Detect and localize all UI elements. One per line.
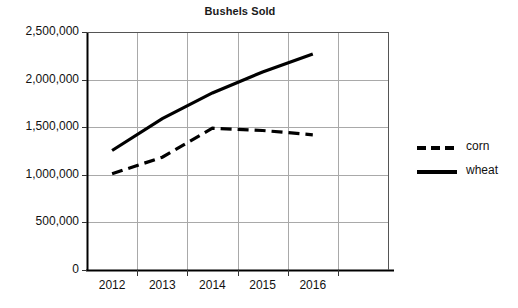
- data-series-group: [112, 54, 313, 174]
- y-tick-label: 1,000,000: [0, 167, 79, 181]
- legend-label-corn: corn: [458, 139, 489, 153]
- y-tick-label: 2,500,000: [0, 24, 79, 38]
- chart-legend: corn wheat: [416, 134, 516, 182]
- legend-item-corn: corn: [416, 134, 516, 158]
- series-line-wheat: [112, 54, 313, 151]
- legend-item-wheat: wheat: [416, 158, 516, 182]
- gridlines: [87, 32, 388, 270]
- axis-ticks: [82, 33, 339, 277]
- y-tick-label: 1,500,000: [0, 119, 79, 133]
- x-tick-label: 2016: [283, 278, 343, 292]
- y-tick-label: 0: [0, 262, 79, 276]
- dashed-line-icon: [416, 140, 458, 152]
- y-tick-label: 2,000,000: [0, 72, 79, 86]
- series-line-corn: [112, 128, 313, 174]
- axis-lines: [86, 32, 394, 271]
- y-tick-label: 500,000: [0, 214, 79, 228]
- legend-label-wheat: wheat: [458, 163, 498, 177]
- chart-container: Bushels Sold 2,500,0002,000,0001,500,000…: [0, 0, 518, 308]
- solid-line-icon: [416, 164, 458, 176]
